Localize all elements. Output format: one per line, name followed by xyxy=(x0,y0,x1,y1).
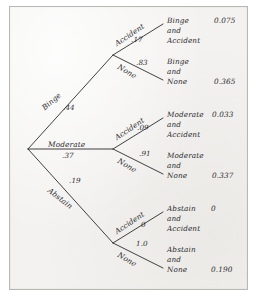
outcome-binge-accident-line2: and xyxy=(167,27,181,35)
branch-prob-moderate-none: .91 xyxy=(139,150,151,158)
branch-prob-binge-none: .83 xyxy=(136,59,148,67)
joint-prob-moderate-accident: 0.033 xyxy=(212,111,233,119)
joint-prob-abstain-none: 0.190 xyxy=(211,266,232,274)
outcome-moderate-none-line3: None xyxy=(167,172,187,180)
branch-prob-binge: .44 xyxy=(63,104,75,112)
outcome-moderate-none-line1: Moderate xyxy=(167,152,204,160)
outcome-binge-none-line3: None xyxy=(167,78,187,86)
joint-prob-binge-none: 0.365 xyxy=(214,78,235,86)
branch-prob-abstain-accident: 0 xyxy=(141,221,146,229)
outcome-abstain-accident-line2: and xyxy=(167,215,181,223)
outcome-binge-accident-line3: Accident xyxy=(167,37,200,45)
outcome-moderate-accident-line3: Accident xyxy=(167,131,200,139)
outcome-binge-accident-line1: Binge xyxy=(167,17,189,25)
outcome-binge-none-line2: and xyxy=(167,68,181,76)
outcome-abstain-none-line1: Abstain xyxy=(167,246,196,254)
outcome-binge-none-line1: Binge xyxy=(167,58,189,66)
outcome-abstain-none-line3: None xyxy=(167,266,187,274)
branch-prob-binge-accident: .17 xyxy=(131,36,143,44)
outcome-abstain-accident-line1: Abstain xyxy=(167,205,196,213)
joint-prob-moderate-none: 0.337 xyxy=(212,172,233,180)
branch-root-binge xyxy=(28,55,113,149)
outcome-moderate-none-line2: and xyxy=(167,162,181,170)
outcome-moderate-accident-line2: and xyxy=(167,121,181,129)
outcome-abstain-accident-line3: Accident xyxy=(167,225,200,233)
branch-root-abstain xyxy=(28,149,113,243)
outcome-moderate-accident-line1: Moderate xyxy=(167,111,204,119)
screenshot-canvas: Binge .44 Moderate .37 Abstain .19 Accid… xyxy=(0,0,260,300)
branch-prob-moderate: .37 xyxy=(62,152,74,160)
joint-prob-binge-accident: 0.075 xyxy=(214,17,235,25)
branch-prob-abstain: .19 xyxy=(69,177,81,185)
outcome-abstain-none-line2: and xyxy=(167,256,181,264)
branch-label-moderate: Moderate xyxy=(48,141,85,149)
branch-prob-moderate-accident: .09 xyxy=(137,124,149,132)
joint-prob-abstain-accident: 0 xyxy=(211,205,216,213)
branch-prob-abstain-none: 1.0 xyxy=(136,240,148,248)
